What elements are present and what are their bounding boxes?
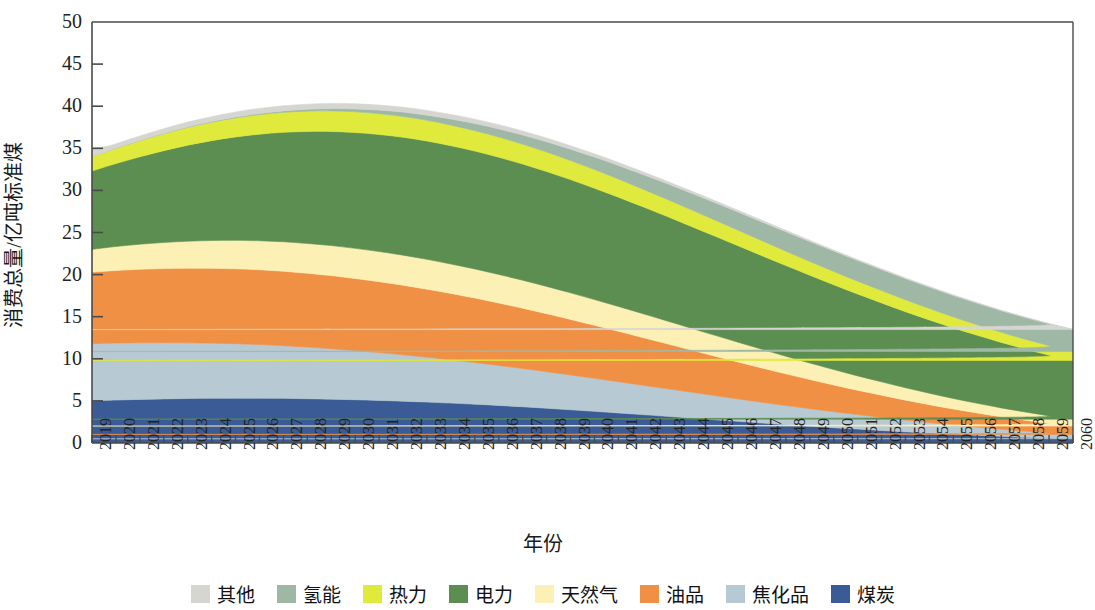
legend-label: 电力 (475, 580, 513, 607)
x-tick-label: 2048 (792, 418, 808, 450)
legend-item[interactable]: 焦化品 (726, 580, 809, 607)
x-tick-label: 2056 (983, 418, 999, 450)
legend-item[interactable]: 天然气 (535, 580, 618, 607)
x-axis-tick-labels: 2019202020212022202320242025202620272028… (0, 448, 1085, 523)
x-tick-label: 2025 (242, 418, 258, 450)
legend-item[interactable]: 其他 (191, 580, 255, 607)
legend-label: 氢能 (303, 580, 341, 607)
x-tick-label: 2059 (1055, 418, 1071, 450)
x-tick-label: 2050 (840, 418, 856, 450)
x-tick-label: 2034 (457, 418, 473, 450)
legend-item[interactable]: 电力 (449, 580, 513, 607)
legend-item[interactable]: 煤炭 (831, 580, 895, 607)
x-tick-label: 2029 (337, 418, 353, 450)
plot-area (0, 0, 1085, 460)
x-tick-label: 2044 (696, 418, 712, 450)
x-tick-label: 2060 (1079, 418, 1095, 450)
x-tick-label: 2052 (888, 418, 904, 450)
legend-item[interactable]: 氢能 (277, 580, 341, 607)
x-tick-label: 2057 (1007, 418, 1023, 450)
x-tick-label: 2020 (122, 418, 138, 450)
x-tick-label: 2027 (289, 418, 305, 450)
x-tick-label: 2019 (98, 418, 114, 450)
legend-label: 热力 (389, 580, 427, 607)
x-tick-label: 2024 (218, 418, 234, 450)
legend-swatch-icon (277, 585, 296, 603)
x-tick-label: 2040 (600, 418, 616, 450)
legend-item[interactable]: 油品 (640, 580, 704, 607)
x-tick-label: 2035 (481, 418, 497, 450)
legend-item[interactable]: 热力 (363, 580, 427, 607)
x-tick-label: 2047 (768, 418, 784, 450)
x-tick-label: 2021 (146, 418, 162, 450)
x-tick-label: 2032 (409, 418, 425, 450)
legend-swatch-icon (449, 585, 468, 603)
legend-label: 煤炭 (857, 580, 895, 607)
x-tick-label: 2038 (553, 418, 569, 450)
x-tick-label: 2023 (194, 418, 210, 450)
x-tick-label: 2054 (935, 418, 951, 450)
legend-swatch-icon (831, 585, 850, 603)
x-tick-label: 2055 (959, 418, 975, 450)
x-tick-label: 2042 (648, 418, 664, 450)
x-tick-label: 2026 (265, 418, 281, 450)
x-tick-label: 2039 (577, 418, 593, 450)
x-tick-label: 2043 (672, 418, 688, 450)
legend-swatch-icon (640, 585, 659, 603)
legend-swatch-icon (726, 585, 745, 603)
x-tick-label: 2022 (170, 418, 186, 450)
x-tick-label: 2036 (505, 418, 521, 450)
x-tick-label: 2051 (864, 418, 880, 450)
x-tick-label: 2037 (529, 418, 545, 450)
x-tick-label: 2053 (912, 418, 928, 450)
x-tick-label: 2030 (361, 418, 377, 450)
legend-label: 其他 (217, 580, 255, 607)
legend-swatch-icon (191, 585, 210, 603)
x-tick-label: 2033 (433, 418, 449, 450)
x-tick-label: 2041 (624, 418, 640, 450)
chart-legend: 其他氢能热力电力天然气油品焦化品煤炭 (0, 580, 1085, 607)
area-series-group (0, 103, 1073, 443)
x-tick-label: 2031 (385, 418, 401, 450)
x-tick-label: 2058 (1031, 418, 1047, 450)
x-tick-label: 2028 (313, 418, 329, 450)
legend-label: 焦化品 (752, 580, 809, 607)
x-tick-label: 2045 (720, 418, 736, 450)
legend-swatch-icon (363, 585, 382, 603)
x-tick-label: 2046 (744, 418, 760, 450)
legend-label: 天然气 (561, 580, 618, 607)
x-axis-title: 年份 (0, 528, 1085, 557)
x-tick-label: 2049 (816, 418, 832, 450)
legend-label: 油品 (666, 580, 704, 607)
legend-swatch-icon (535, 585, 554, 603)
